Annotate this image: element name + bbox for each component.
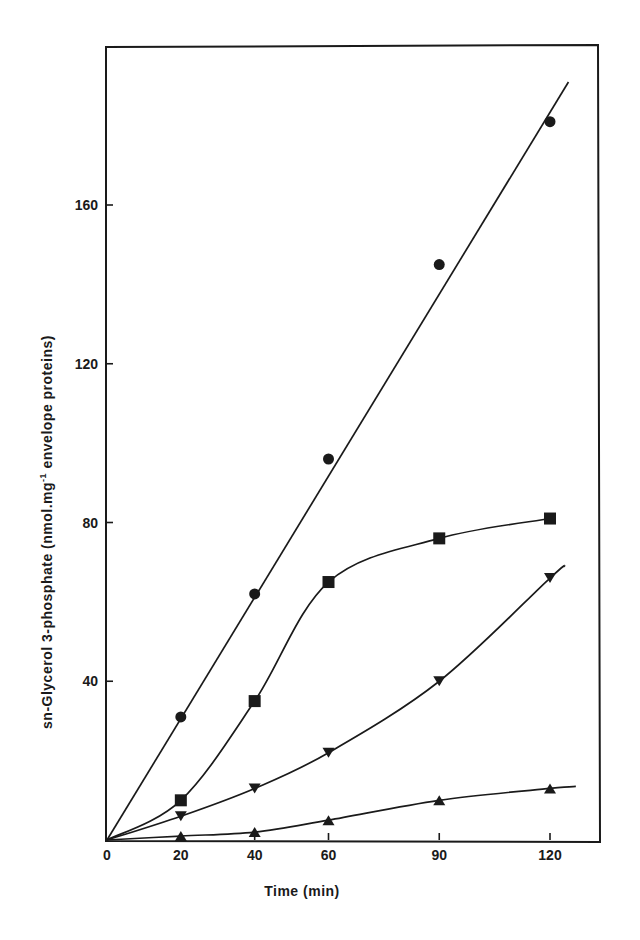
circle-marker xyxy=(323,454,334,465)
square-marker xyxy=(323,576,335,588)
triangle-down-marker xyxy=(323,748,335,758)
circle-marker xyxy=(545,116,556,127)
circle-marker xyxy=(434,259,445,270)
y-tick-label: 120 xyxy=(75,356,99,372)
x-axis-title: Time (min) xyxy=(264,883,340,899)
x-tick-label: 0 xyxy=(103,847,111,863)
chart-canvas: 0204060901204080120160 Time (min) sn-Gly… xyxy=(0,0,640,940)
square-marker xyxy=(433,532,445,544)
curve-circles xyxy=(107,82,568,840)
y-axis-title: sn-Glycerol 3-phosphate (nmol.mg-1 envel… xyxy=(38,335,55,729)
y-tick-label: 80 xyxy=(82,515,98,531)
triangle-down-marker xyxy=(249,783,261,793)
data-markers xyxy=(175,116,556,841)
y-tick-label: 160 xyxy=(75,197,99,213)
square-marker xyxy=(544,513,556,525)
y-tick-label: 40 xyxy=(82,673,98,689)
square-marker xyxy=(249,695,261,707)
x-tick-label: 90 xyxy=(431,847,447,863)
curve-squares xyxy=(107,519,550,840)
x-tick-label: 120 xyxy=(538,847,562,863)
x-tick-label: 60 xyxy=(321,847,337,863)
x-tick-label: 40 xyxy=(247,847,263,863)
circle-marker xyxy=(249,588,260,599)
circle-marker xyxy=(175,711,186,722)
x-tick-label: 20 xyxy=(173,847,189,863)
plot-frame xyxy=(106,45,600,842)
data-curves xyxy=(107,82,576,840)
axis-ticks: 0204060901204080120160 xyxy=(75,197,562,863)
triangle-down-marker xyxy=(175,811,187,821)
square-marker xyxy=(175,794,187,806)
